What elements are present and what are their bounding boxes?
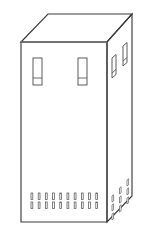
side-vent-slot (127, 197, 129, 204)
side-vent-slot (120, 205, 122, 212)
side-vent-slot (120, 196, 122, 203)
side-vent-slot (127, 188, 129, 195)
front-vent-slot (89, 202, 91, 209)
front-vent-slot (74, 193, 76, 200)
front-vent-slot (45, 202, 47, 209)
front-slot-right (78, 58, 87, 85)
side-slot-far (123, 43, 127, 67)
side-slot-near (112, 55, 116, 79)
side-vent-slot (127, 179, 129, 186)
front-slot-left (33, 58, 42, 85)
front-vent-slot (81, 202, 83, 209)
side-vent-slot (112, 204, 114, 211)
side-vent-slot (120, 187, 122, 194)
front-vent-slot (45, 193, 47, 200)
front-vent-slot (38, 202, 40, 209)
front-vent-slot (53, 202, 55, 209)
front-vent-slot (81, 193, 83, 200)
front-vent-slot (74, 202, 76, 209)
front-vent-slot (60, 202, 62, 209)
front-vent-slot (96, 193, 98, 200)
front-vent-slot (60, 193, 62, 200)
front-vent-slot (67, 202, 69, 209)
front-vent-slot (89, 193, 91, 200)
side-vent-slot (112, 213, 114, 220)
front-vent-slot (31, 193, 33, 200)
side-vent-slot (112, 195, 114, 202)
front-vent-slot (67, 193, 69, 200)
enclosure-line-drawing (0, 0, 146, 237)
front-vent-slot (31, 202, 33, 209)
front-vent-slot (38, 193, 40, 200)
front-vent-slot (53, 193, 55, 200)
figure-root (0, 0, 146, 237)
front-vent-slot (96, 202, 98, 209)
